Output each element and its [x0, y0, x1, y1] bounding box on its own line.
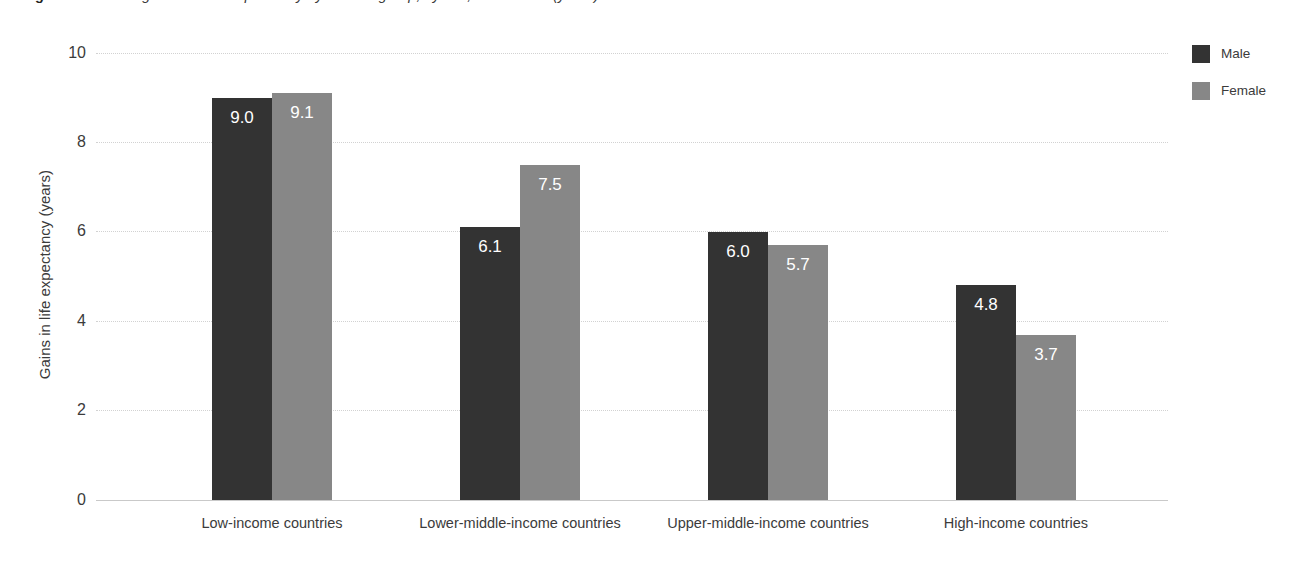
legend-item-female[interactable]: Female — [1192, 81, 1266, 100]
bar-female-0[interactable]: 9.1 — [272, 93, 332, 500]
legend-label-female: Female — [1221, 83, 1266, 98]
bar-value-label: 6.0 — [708, 243, 768, 260]
bar-female-1[interactable]: 7.5 — [520, 165, 580, 500]
bar-value-label: 3.7 — [1016, 346, 1076, 363]
bar-female-3[interactable]: 3.7 — [1016, 335, 1076, 500]
x-tick-label-2: Upper-middle-income countries — [667, 515, 868, 531]
figure-container: Figure 1.3: Years gained in life expecta… — [0, 0, 1302, 575]
bar-value-label: 4.8 — [956, 296, 1016, 313]
bar-male-0[interactable]: 9.0 — [212, 98, 272, 500]
bar-male-3[interactable]: 4.8 — [956, 285, 1016, 500]
bar-value-label: 5.7 — [768, 256, 828, 273]
legend-label-male: Male — [1221, 46, 1250, 61]
x-tick-label-3: High-income countries — [944, 515, 1088, 531]
bars-layer: 9.09.16.17.56.05.74.83.7 — [0, 0, 1302, 575]
x-tick-label-0: Low-income countries — [201, 515, 342, 531]
bar-male-2[interactable]: 6.0 — [708, 232, 768, 500]
bar-value-label: 6.1 — [460, 238, 520, 255]
bar-value-label: 7.5 — [520, 176, 580, 193]
bar-value-label: 9.1 — [272, 104, 332, 121]
bar-female-2[interactable]: 5.7 — [768, 245, 828, 500]
chart-legend: Male Female — [1192, 44, 1266, 118]
legend-item-male[interactable]: Male — [1192, 44, 1266, 63]
x-tick-label-1: Lower-middle-income countries — [419, 515, 620, 531]
bar-value-label: 9.0 — [212, 109, 272, 126]
legend-swatch-female — [1192, 82, 1210, 100]
chart-plot-area: Gains in life expectancy (years) 10 8 6 … — [0, 0, 1302, 575]
bar-male-1[interactable]: 6.1 — [460, 227, 520, 500]
legend-swatch-male — [1192, 45, 1210, 63]
